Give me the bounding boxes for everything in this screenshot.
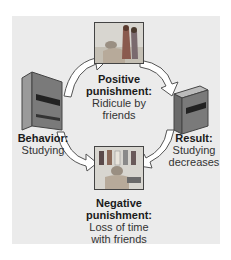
book-behavior-icon xyxy=(18,70,66,132)
positive-punishment-label: Positive punishment: Ridicule by friends xyxy=(84,73,154,121)
behavior-text: Studying xyxy=(14,144,72,156)
result-label: Result: Studying decreases xyxy=(164,132,224,168)
result-text-2: decreases xyxy=(164,156,224,168)
positive-text-2: friends xyxy=(84,109,154,121)
negative-punishment-label: Negative punishment: Loss of time with f… xyxy=(84,197,154,245)
positive-text-1: Ridicule by xyxy=(84,97,154,109)
book-result-icon xyxy=(170,84,216,136)
negative-heading-2: punishment: xyxy=(84,209,154,221)
positive-heading-1: Positive xyxy=(84,73,154,85)
negative-punishment-photo xyxy=(94,146,144,190)
negative-text-1: Loss of time xyxy=(84,221,154,233)
negative-heading-1: Negative xyxy=(84,197,154,209)
behavior-label: Behavior: Studying xyxy=(14,132,72,156)
result-heading: Result: xyxy=(164,132,224,144)
negative-text-2: with friends xyxy=(84,233,154,245)
isolated-student-scene-icon xyxy=(95,147,143,189)
behavior-heading: Behavior: xyxy=(14,132,72,144)
ridicule-scene-icon xyxy=(95,23,143,63)
positive-punishment-photo xyxy=(94,22,144,64)
result-text-1: Studying xyxy=(164,144,224,156)
positive-heading-2: punishment: xyxy=(84,85,154,97)
